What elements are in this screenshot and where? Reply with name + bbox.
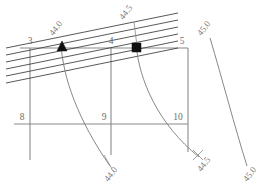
hatch-line-5	[6, 41, 178, 76]
grid-node-label-4: 4	[109, 36, 114, 46]
contour-line-45-0	[210, 38, 247, 166]
contour-label-44-5-bottom: 44.5	[195, 154, 213, 173]
contour-label-44-5-top: 44.5	[117, 2, 135, 21]
grid-node-labels: 3 4 5 8 9 10	[20, 36, 185, 122]
contour-line-44-0	[61, 44, 110, 166]
contour-grid-diagram: 3 4 5 8 9 10 44.0 44.5 45.0 44.0 44.5 45…	[0, 0, 277, 191]
contour-label-45-0-bottom: 45.0	[241, 164, 259, 183]
contour-label-45-0-top: 45.0	[195, 18, 213, 37]
grid-node-label-9: 9	[102, 112, 107, 122]
grid-structure	[14, 48, 188, 160]
grid-node-label-3: 3	[28, 36, 33, 46]
square-marker[interactable]	[132, 43, 141, 52]
grid-node-label-5: 5	[180, 36, 185, 46]
hatch-line-6	[6, 48, 178, 83]
contour-line-44-5	[136, 44, 199, 157]
grid-node-label-8: 8	[20, 112, 25, 122]
diagram-canvas: 3 4 5 8 9 10 44.0 44.5 45.0 44.0 44.5 45…	[0, 0, 277, 191]
contour-label-44-0-top: 44.0	[47, 18, 65, 37]
grid-node-label-10: 10	[173, 112, 183, 122]
contour-label-44-0-bottom: 44.0	[102, 164, 120, 183]
contour-curves	[61, 38, 247, 166]
contour-value-labels: 44.0 44.5 45.0 44.0 44.5 45.0	[47, 2, 259, 183]
